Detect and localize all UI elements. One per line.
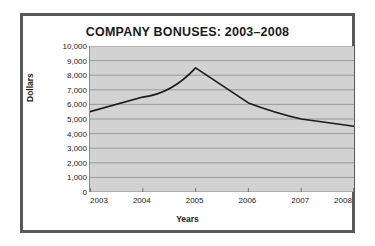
y-tick-label: 6,000 [41, 100, 87, 109]
y-tick-label: 3,000 [41, 144, 87, 153]
line-chart-svg [90, 46, 354, 192]
x-tick-label: 2003 [90, 196, 108, 205]
y-tick-label: 2,000 [41, 158, 87, 167]
chart-figure-frame: COMPANY BONUSES: 2003–2008 Dollars 10,00… [20, 13, 355, 233]
x-axis-tick-labels: 200320042005200620072008 [89, 196, 353, 210]
y-tick-label: 9,000 [41, 56, 87, 65]
x-tick-label: 2006 [238, 196, 256, 205]
y-tick-label: 1,000 [41, 173, 87, 182]
x-tick-label: 2005 [186, 196, 204, 205]
x-tick-label: 2007 [291, 196, 309, 205]
gridlines [90, 46, 354, 192]
y-axis-tick-labels: 10,0009,0008,0007,0006,0005,0004,0003,00… [41, 46, 87, 192]
x-tick-label: 2004 [133, 196, 151, 205]
y-tick-label: 10,000 [41, 42, 87, 51]
y-tick-label: 0 [41, 188, 87, 197]
data-series-line [90, 68, 354, 126]
y-tick-label: 4,000 [41, 129, 87, 138]
y-axis-title: Dollars [25, 88, 35, 102]
chart-title: COMPANY BONUSES: 2003–2008 [23, 25, 352, 39]
y-tick-label: 8,000 [41, 71, 87, 80]
plot-area [89, 46, 354, 192]
x-axis-title: Years [23, 214, 352, 224]
axis-tick-marks [91, 188, 354, 192]
y-tick-label: 5,000 [41, 115, 87, 124]
y-tick-label: 7,000 [41, 85, 87, 94]
x-tick-label: 2008 [334, 196, 352, 205]
